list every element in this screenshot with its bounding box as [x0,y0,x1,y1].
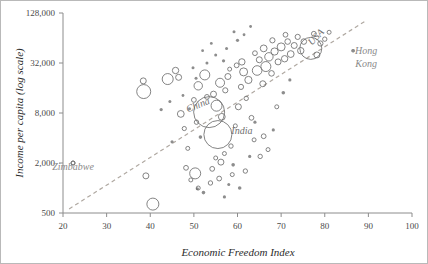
x-tick-label: 80 [320,221,330,231]
data-point-bubble [227,183,230,186]
data-point-bubble [260,45,267,52]
data-point-bubble [217,176,222,181]
data-point-bubble [283,32,288,37]
axis-spines [63,13,412,213]
data-point-bubble [137,85,151,99]
data-point-bubble [201,49,204,52]
data-point-bubble [225,47,228,50]
data-point-bubble [218,159,224,165]
x-axis-ticks: 2030405060708090100 [59,213,420,231]
y-tick-label: 128,000 [26,8,56,18]
data-point-bubble [291,42,297,48]
data-point-bubble [275,59,281,65]
data-point-bubble [222,152,226,156]
data-point-bubble [231,163,235,167]
data-point-bubble [216,78,225,87]
chart-figure: 5002,0008,00032,000128,000 2030405060708… [0,0,428,264]
data-point-bubble [211,100,222,111]
data-point-bubble [194,82,202,90]
data-point-bubble [285,39,291,45]
data-point-bubble [288,78,291,81]
data-point-bubble [177,111,184,118]
x-tick-label: 30 [102,221,112,231]
annotation-label: China [184,95,211,114]
data-point-bubble [252,138,256,142]
annotation-label: India [230,125,252,136]
data-point-bubble [199,135,203,139]
data-point-bubble [275,105,279,109]
data-point-bubble [223,195,226,198]
x-axis-title: Economic Freedom Index [180,246,294,258]
y-tick-label: 8,000 [35,108,56,118]
data-point-bubble [223,88,228,93]
data-point-bubble [248,155,251,158]
y-tick-label: 500 [42,208,56,218]
x-tick-label: 60 [233,221,243,231]
data-point-bubble [195,77,198,80]
data-point-bubble [261,134,266,139]
data-point-bubble [182,94,185,97]
data-point-bubble [200,70,210,80]
x-tick-label: 70 [277,221,287,231]
x-tick-label: 100 [405,221,419,231]
data-point-bubble [239,59,245,65]
data-points-group [71,25,355,210]
data-point-bubble [192,66,195,69]
x-tick-label: 20 [59,221,69,231]
x-tick-label: 50 [189,221,199,231]
scatter-plot-svg: 5002,0008,00032,000128,000 2030405060708… [1,1,428,264]
data-point-bubble [228,67,232,71]
data-point-bubble [186,146,190,150]
data-point-bubble [225,74,231,80]
data-point-bubble [162,74,173,85]
data-point-bubble [210,166,215,171]
data-point-bubble [236,39,239,42]
data-point-bubble [287,51,294,58]
data-point-bubble [277,43,285,51]
data-point-bubble [184,165,189,170]
data-point-bubble [261,62,271,72]
data-point-bubble [235,104,241,110]
data-point-bubble [160,108,163,111]
annotation-label: Zimbabwe [52,161,94,172]
y-axis-title: Income per capita (log scale) [13,48,26,179]
data-point-bubble [258,154,262,158]
data-point-bubble [281,56,287,62]
data-point-bubble [243,169,247,173]
data-point-bubble [182,126,186,130]
data-point-bubble [222,59,225,62]
data-point-bubble [249,25,252,28]
data-point-bubble [238,186,242,190]
data-point-bubble [270,38,275,43]
data-point-bubble [147,198,159,210]
data-point-bubble [233,30,236,33]
annotation-label: Kong [354,58,377,69]
data-point-bubble [327,30,331,34]
data-point-bubble [172,67,178,73]
data-point-bubble [240,68,248,76]
data-point-bubble [272,128,275,131]
data-point-bubble [234,63,239,68]
axis-lines [63,13,412,213]
data-point-bubble [168,100,171,103]
data-point-bubble [245,76,252,83]
data-point-bubble [208,181,212,185]
data-point-bubble [282,91,286,95]
annotation-label: USA [305,26,326,47]
data-point-bubble [295,34,300,39]
data-point-bubble [205,62,208,65]
data-point-bubble [249,115,254,120]
y-tick-label: 32,000 [30,58,55,68]
data-point-bubble [210,42,213,45]
data-point-bubble [253,51,258,56]
data-point-bubble [238,84,243,89]
data-point-bubble [140,78,146,84]
data-point-bubble [214,53,217,56]
annotation-label: Hong [354,45,377,56]
data-point-bubble [190,168,201,179]
data-point-bubble [260,81,266,87]
data-point-bubble [323,37,327,41]
data-point-bubble [143,173,149,179]
data-point-bubble [253,121,256,124]
x-tick-label: 90 [364,221,374,231]
